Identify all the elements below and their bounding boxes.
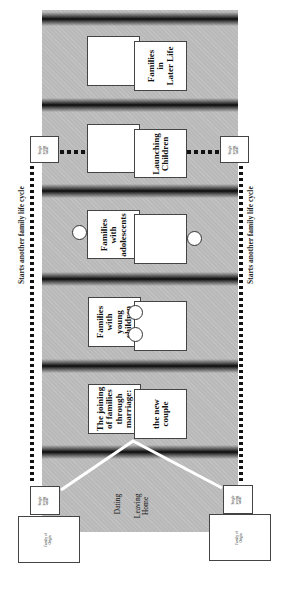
new-couple-label: the new couple	[151, 399, 170, 429]
family-of-origin-box: Family of Origin	[18, 516, 80, 563]
single-young-adult-label: Single young adult	[232, 495, 243, 504]
single-young-adult-box: Single young adult	[30, 486, 60, 515]
leaving-home-label: Leaving Home	[134, 494, 150, 519]
right-launch-dotted-line	[187, 150, 220, 154]
dating-label: Dating	[114, 494, 122, 514]
adolescents-label: Families with adolescents	[99, 213, 127, 257]
adolescent-circle	[72, 225, 87, 240]
adolescents-box: Families with adolescents	[87, 210, 140, 259]
later-life-label: Families in Later Life	[146, 46, 174, 85]
marriage-label: The joining of families through marriage…	[96, 387, 134, 431]
right-cycle-dotted-line	[239, 166, 243, 484]
new-couple-box: the new couple	[134, 389, 187, 439]
left-cycle-label: Starts another family life cycle	[17, 186, 26, 284]
launching-back-box	[87, 124, 140, 173]
single-young-adult-label: Single young adult	[229, 145, 240, 154]
family-of-origin-label: Family of Origin	[236, 531, 243, 545]
single-young-adult-box: Single young adult	[223, 485, 253, 514]
right-cycle-label: Starts another family life cycle	[246, 186, 255, 284]
family-of-origin-box: Family of Origin	[209, 514, 271, 561]
launching-label: Launching Children	[151, 133, 170, 175]
adolescent-circle	[187, 231, 202, 246]
single-young-adult-box: Single young adult	[30, 136, 59, 163]
left-cycle-dotted-line	[30, 166, 34, 484]
single-young-adult-label: Single young adult	[39, 145, 50, 154]
later-life-box: Families in Later Life	[134, 41, 187, 91]
family-of-origin-label: Family of Origin	[45, 533, 52, 547]
later-life-back-box	[87, 36, 140, 86]
single-young-adult-label: Single young adult	[39, 496, 50, 505]
child-circle	[128, 305, 143, 320]
leaving-home-area: Leaving Home	[130, 494, 170, 524]
single-young-adult-box: Single young adult	[220, 136, 249, 163]
left-launch-dotted-line	[60, 150, 87, 154]
child-circle	[128, 327, 143, 342]
adolescents-front-box	[134, 214, 187, 264]
launching-box: Launching Children	[134, 129, 187, 178]
